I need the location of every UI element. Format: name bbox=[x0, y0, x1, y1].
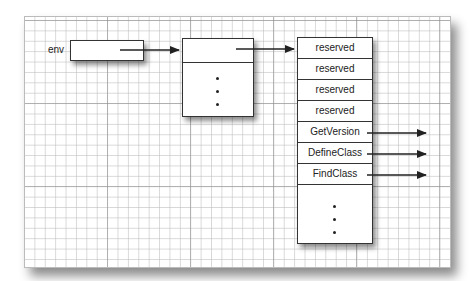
arrows-layer bbox=[0, 0, 470, 281]
